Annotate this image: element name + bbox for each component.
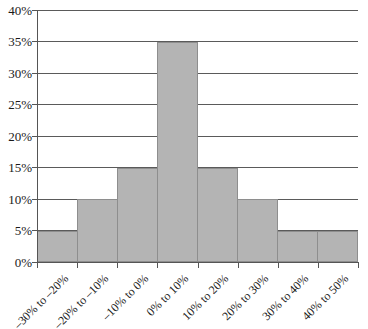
x-tick-1 <box>77 263 78 268</box>
bar-3 <box>157 42 198 263</box>
y-tick-30 <box>32 73 37 74</box>
bar-5 <box>237 199 278 262</box>
y-tick-25 <box>32 104 37 105</box>
y-axis-label-10: 10% <box>8 193 32 206</box>
y-axis-label-5: 5% <box>15 224 32 237</box>
y-tick-10 <box>32 199 37 200</box>
bar-7 <box>317 231 358 263</box>
y-axis-label-30: 30% <box>8 67 32 80</box>
y-tick-40 <box>32 10 37 11</box>
bars-layer <box>37 10 358 262</box>
x-tick-3 <box>157 263 158 268</box>
y-axis-line <box>37 10 38 263</box>
x-tick-8 <box>358 263 359 268</box>
histogram-chart: 40% 35% 30% 25% 20% 15% 10% 5% 0% –30% t… <box>0 0 368 329</box>
bar-2 <box>117 168 158 263</box>
bar-0 <box>37 231 78 263</box>
x-tick-2 <box>117 263 118 268</box>
y-tick-5 <box>32 230 37 231</box>
y-tick-15 <box>32 167 37 168</box>
y-axis-label-35: 35% <box>8 35 32 48</box>
x-tick-0 <box>37 263 38 268</box>
bar-1 <box>77 199 118 262</box>
y-axis-label-15: 15% <box>8 161 32 174</box>
y-axis-label-25: 25% <box>8 98 32 111</box>
y-axis-label-40: 40% <box>8 4 32 17</box>
x-tick-7 <box>318 263 319 268</box>
x-tick-4 <box>198 263 199 268</box>
bar-6 <box>277 231 318 263</box>
x-tick-6 <box>278 263 279 268</box>
bar-4 <box>197 168 238 263</box>
y-axis-label-0: 0% <box>15 256 32 269</box>
y-axis-label-20: 20% <box>8 130 32 143</box>
x-tick-5 <box>238 263 239 268</box>
y-tick-20 <box>32 136 37 137</box>
y-tick-35 <box>32 41 37 42</box>
